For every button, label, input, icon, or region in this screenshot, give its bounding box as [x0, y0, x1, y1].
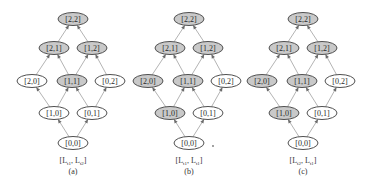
- panel-caption: [Lt1, Lt1]: [176, 156, 203, 166]
- node-label: [2,1]: [276, 44, 292, 53]
- node-label: [2,1]: [162, 44, 178, 53]
- lattice-node: [0,2]: [325, 75, 355, 88]
- node-label: [1,2]: [314, 44, 330, 53]
- panel-sublabel: (c): [299, 167, 308, 176]
- node-label: [2,0]: [24, 77, 40, 86]
- panel-b: [2,2][2,1][1,2][2,0][1,1][0,2][1,0][0,1]…: [133, 13, 241, 177]
- node-label: [1,0]: [46, 109, 62, 118]
- node-label: [1,0]: [162, 109, 178, 118]
- lattice-node: [2,1]: [269, 42, 299, 55]
- arrowhead-icon: [152, 87, 156, 91]
- lattice-node: [1,2]: [307, 42, 337, 55]
- lattice-node: [1,1]: [57, 75, 87, 88]
- panel-sublabel: (a): [69, 167, 78, 176]
- nodes: [2,2][2,1][1,2][2,0][1,1][0,2][1,0][0,1]…: [247, 13, 355, 150]
- lattice-figure: [2,2][2,1][1,2][2,0][1,1][0,2][1,0][0,1]…: [0, 0, 370, 190]
- panel-a: [2,2][2,1][1,2][2,0][1,1][0,2][1,0][0,1]…: [17, 13, 125, 177]
- node-label: [1,1]: [64, 77, 80, 86]
- lattice-node: [2,0]: [17, 75, 47, 88]
- node-label: [0,2]: [332, 77, 348, 86]
- node-label: [0,2]: [218, 77, 234, 86]
- node-label: [1,1]: [180, 77, 196, 86]
- lattice-node: [1,1]: [287, 75, 317, 88]
- lattice-node: [0,2]: [211, 75, 241, 88]
- lattice-node: [1,1]: [173, 75, 203, 88]
- lattice-node: [2,0]: [247, 75, 277, 88]
- node-label: [1,2]: [200, 44, 216, 53]
- node-label: [2,0]: [254, 77, 270, 86]
- lattice-node: [0,1]: [193, 107, 223, 120]
- node-label: [0,0]: [295, 139, 311, 148]
- lattice-node: [0,0]: [58, 137, 88, 150]
- stray-dot-mark: [212, 145, 214, 147]
- node-label: [2,1]: [46, 44, 62, 53]
- node-label: [1,0]: [276, 109, 292, 118]
- lattice-node: [2,1]: [155, 42, 185, 55]
- lattice-node: [1,0]: [155, 107, 185, 120]
- panel-caption: [Lt2, Lt1]: [290, 156, 317, 166]
- lattice-node: [0,1]: [77, 107, 107, 120]
- node-label: [0,1]: [84, 109, 100, 118]
- node-label: [2,2]: [65, 15, 81, 24]
- node-label: [0,1]: [314, 109, 330, 118]
- arrowhead-icon: [266, 87, 270, 91]
- node-label: [1,2]: [84, 44, 100, 53]
- node-label: [2,2]: [181, 15, 197, 24]
- lattice-node: [0,1]: [307, 107, 337, 120]
- node-label: [2,2]: [295, 15, 311, 24]
- lattice-node: [2,1]: [39, 42, 69, 55]
- panel-caption: [Lt1, Lt2]: [60, 156, 87, 166]
- lattice-node: [2,2]: [58, 13, 88, 26]
- panel-c: [2,2][2,1][1,2][2,0][1,1][0,2][1,0][0,1]…: [247, 13, 355, 177]
- lattice-node: [1,0]: [39, 107, 69, 120]
- node-label: [2,0]: [140, 77, 156, 86]
- nodes: [2,2][2,1][1,2][2,0][1,1][0,2][1,0][0,1]…: [133, 13, 241, 150]
- lattice-node: [0,0]: [288, 137, 318, 150]
- lattice-node: [1,2]: [193, 42, 223, 55]
- lattice-node: [0,2]: [95, 75, 125, 88]
- nodes: [2,2][2,1][1,2][2,0][1,1][0,2][1,0][0,1]…: [17, 13, 125, 150]
- panel-sublabel: (b): [184, 167, 194, 176]
- lattice-node: [1,0]: [269, 107, 299, 120]
- node-label: [1,1]: [294, 77, 310, 86]
- lattice-node: [1,2]: [77, 42, 107, 55]
- lattice-node: [2,2]: [288, 13, 318, 26]
- lattice-node: [0,0]: [174, 137, 204, 150]
- node-label: [0,0]: [65, 139, 81, 148]
- node-label: [0,0]: [181, 139, 197, 148]
- node-label: [0,1]: [200, 109, 216, 118]
- node-label: [0,2]: [102, 77, 118, 86]
- arrowhead-icon: [36, 87, 40, 91]
- lattice-node: [2,2]: [174, 13, 204, 26]
- lattice-node: [2,0]: [133, 75, 163, 88]
